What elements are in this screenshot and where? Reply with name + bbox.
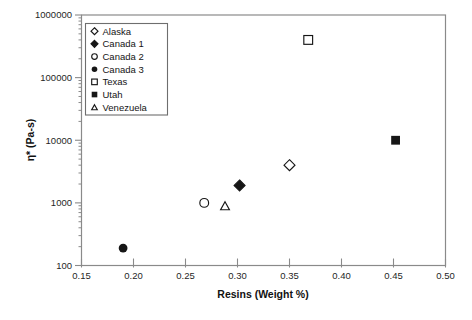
x-tick-label: 0.45 [384,270,403,281]
legend-label-canada-1: Canada 1 [103,38,144,49]
x-tick-label: 0.30 [228,270,247,281]
marker-canada-3 [119,244,128,253]
legend-marker-canada-3 [92,66,98,72]
marker-venezuela [221,202,230,210]
x-tick-label: 0.15 [72,270,91,281]
chart-figure: 10010001000010000010000000.150.200.250.3… [0,0,472,320]
legend-label-alaska: Alaska [103,26,132,37]
y-tick-label: 100 [56,260,72,271]
marker-texas [304,36,313,45]
marker-utah [391,136,400,145]
y-tick-label: 100000 [40,72,72,83]
legend-marker-utah [92,92,98,98]
legend-label-canada-3: Canada 3 [103,64,144,75]
y-tick-label: 1000 [51,197,72,208]
scatter-plot: 10010001000010000010000000.150.200.250.3… [0,0,472,320]
x-tick-label: 0.25 [176,270,195,281]
marker-alaska [284,160,295,171]
legend-marker-canada-2 [92,54,98,60]
legend-marker-texas [92,79,98,85]
marker-canada-2 [200,198,209,207]
y-tick-label: 10000 [46,135,72,146]
legend-label-texas: Texas [103,76,128,87]
x-axis-title: Resins (Weight %) [163,288,363,302]
y-axis-title: η* (Pa-s) [24,79,38,201]
legend-label-utah: Utah [103,89,123,100]
x-tick-label: 0.35 [280,270,299,281]
x-tick-label: 0.50 [436,270,455,281]
legend-label-canada-2: Canada 2 [103,51,144,62]
marker-canada-1 [234,180,245,191]
y-tick-label: 1000000 [35,9,72,20]
x-tick-label: 0.40 [332,270,351,281]
x-tick-label: 0.20 [124,270,143,281]
legend-label-venezuela: Venezuela [103,102,148,113]
